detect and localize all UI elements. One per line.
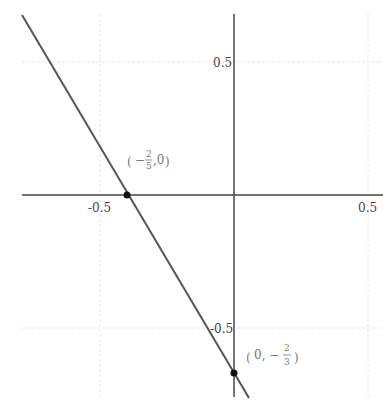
gridlines: [22, 14, 383, 397]
line-graph: -0.5 0.5 0.5 -0.5 ( − 2 5 ,0 ) ( 0, − 2 …: [0, 0, 383, 403]
svg-text:(: (: [127, 155, 132, 169]
data-line: [22, 15, 249, 398]
x-tick-label-neg: -0.5: [88, 201, 111, 215]
svg-text:0, −: 0, −: [254, 348, 279, 362]
x-intercept-label: ( − 2 5 ,0 ): [127, 149, 170, 171]
y-tick-label-pos: 0.5: [213, 56, 232, 70]
y-intercept-label: ( 0, − 2 3 ): [246, 343, 299, 367]
svg-text:): ): [165, 155, 170, 169]
svg-text:(: (: [246, 351, 251, 365]
svg-text:,0: ,0: [153, 153, 164, 167]
svg-text:2: 2: [146, 149, 152, 159]
x-intercept-point: [124, 192, 131, 199]
svg-text:5: 5: [146, 161, 152, 171]
svg-text:−: −: [135, 153, 145, 167]
y-intercept-point: [231, 370, 238, 377]
svg-text:2: 2: [284, 343, 290, 353]
x-tick-label-pos: 0.5: [358, 201, 377, 215]
svg-text:): ): [294, 351, 299, 365]
svg-text:3: 3: [284, 357, 290, 367]
y-tick-label-neg: -0.5: [210, 322, 233, 336]
